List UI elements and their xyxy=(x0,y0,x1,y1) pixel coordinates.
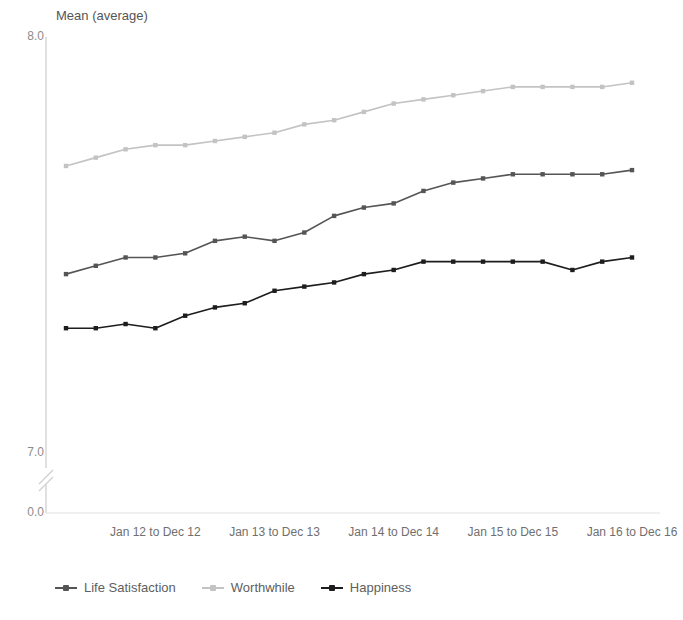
data-point-marker xyxy=(421,97,425,101)
data-point-marker xyxy=(570,85,574,89)
data-point-marker xyxy=(123,255,127,259)
data-point-marker xyxy=(362,110,366,114)
data-point-marker xyxy=(272,289,276,293)
data-point-marker xyxy=(540,85,544,89)
data-point-marker xyxy=(153,255,157,259)
data-point-marker xyxy=(540,172,544,176)
y-axis-title: Mean (average) xyxy=(56,8,148,23)
data-point-marker xyxy=(123,322,127,326)
legend-item-worthwhile[interactable]: Worthwhile xyxy=(202,580,295,595)
data-point-marker xyxy=(511,259,515,263)
data-point-marker xyxy=(332,280,336,284)
series-happiness xyxy=(64,255,634,330)
data-point-marker xyxy=(391,268,395,272)
data-point-marker xyxy=(421,259,425,263)
data-point-marker xyxy=(272,239,276,243)
data-point-marker xyxy=(243,135,247,139)
data-point-marker xyxy=(183,251,187,255)
data-point-marker xyxy=(272,130,276,134)
legend-swatch-icon xyxy=(202,583,224,593)
data-point-marker xyxy=(451,93,455,97)
data-point-marker xyxy=(64,272,68,276)
data-point-marker xyxy=(332,118,336,122)
data-point-marker xyxy=(481,89,485,93)
data-point-marker xyxy=(451,180,455,184)
data-point-marker xyxy=(64,164,68,168)
data-point-marker xyxy=(362,205,366,209)
data-point-marker xyxy=(302,230,306,234)
data-point-marker xyxy=(302,284,306,288)
y-tick-label-0: 0.0 xyxy=(10,505,44,519)
legend-label: Life Satisfaction xyxy=(84,580,176,595)
data-point-marker xyxy=(570,172,574,176)
data-point-marker xyxy=(183,314,187,318)
plot-area xyxy=(0,0,683,620)
data-point-marker xyxy=(630,81,634,85)
data-point-marker xyxy=(511,172,515,176)
data-point-marker xyxy=(421,189,425,193)
legend-label: Happiness xyxy=(350,580,411,595)
data-point-marker xyxy=(213,305,217,309)
y-tick-label-8: 8.0 xyxy=(10,29,44,43)
x-tick-label: Jan 12 to Dec 12 xyxy=(110,525,201,539)
data-point-marker xyxy=(213,139,217,143)
data-point-marker xyxy=(481,259,485,263)
legend-item-happiness[interactable]: Happiness xyxy=(321,580,411,595)
data-point-marker xyxy=(302,122,306,126)
axis-break-mark xyxy=(39,470,53,484)
y-tick-label-7: 7.0 xyxy=(10,445,44,459)
data-point-marker xyxy=(94,264,98,268)
data-point-marker xyxy=(451,259,455,263)
data-point-marker xyxy=(630,168,634,172)
series-line xyxy=(66,170,632,274)
data-point-marker xyxy=(600,172,604,176)
data-point-marker xyxy=(243,301,247,305)
series-worthwhile xyxy=(64,81,634,169)
data-point-marker xyxy=(391,201,395,205)
chart-legend: Life SatisfactionWorthwhileHappiness xyxy=(55,580,411,595)
data-point-marker xyxy=(391,101,395,105)
series-line xyxy=(66,257,632,328)
data-point-marker xyxy=(243,234,247,238)
data-point-marker xyxy=(183,143,187,147)
data-point-marker xyxy=(630,255,634,259)
data-point-marker xyxy=(153,326,157,330)
series-life-satisfaction xyxy=(64,168,634,276)
data-point-marker xyxy=(540,259,544,263)
series-line xyxy=(66,83,632,166)
data-point-marker xyxy=(94,326,98,330)
x-tick-label: Jan 16 to Dec 16 xyxy=(587,525,678,539)
legend-swatch-icon xyxy=(321,583,343,593)
data-point-marker xyxy=(511,85,515,89)
data-point-marker xyxy=(332,214,336,218)
data-point-marker xyxy=(362,272,366,276)
data-point-marker xyxy=(600,85,604,89)
x-tick-label: Jan 15 to Dec 15 xyxy=(467,525,558,539)
data-point-marker xyxy=(213,239,217,243)
x-tick-label: Jan 14 to Dec 14 xyxy=(348,525,439,539)
x-tick-label: Jan 13 to Dec 13 xyxy=(229,525,320,539)
line-chart: Mean (average) 8.0 7.0 0.0 Jan 12 to Dec… xyxy=(0,0,683,620)
legend-item-life-satisfaction[interactable]: Life Satisfaction xyxy=(55,580,176,595)
data-point-marker xyxy=(600,259,604,263)
data-point-marker xyxy=(94,155,98,159)
data-point-marker xyxy=(64,326,68,330)
data-point-marker xyxy=(123,147,127,151)
data-point-marker xyxy=(481,176,485,180)
data-point-marker xyxy=(570,268,574,272)
legend-swatch-icon xyxy=(55,583,77,593)
data-point-marker xyxy=(153,143,157,147)
legend-label: Worthwhile xyxy=(231,580,295,595)
